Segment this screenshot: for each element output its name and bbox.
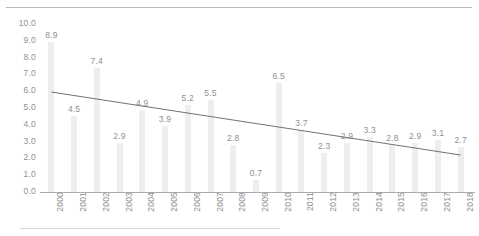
x-axis-tick-label: 2016 — [419, 192, 429, 212]
x-axis-tick-label: 2014 — [374, 192, 384, 212]
x-axis-tick-label: 2015 — [396, 192, 406, 212]
x-axis: 2000200120022003200420052006200720082009… — [40, 192, 472, 236]
y-axis-tick-label: 7.0 — [2, 69, 36, 78]
y-axis-tick-label: 4.0 — [2, 120, 36, 129]
x-axis-tick-label: 2018 — [465, 192, 475, 212]
y-axis-tick-label: 10.0 — [2, 19, 36, 28]
x-axis-tick-label: 2009 — [260, 192, 270, 212]
x-axis-tick-label: 2007 — [215, 192, 225, 212]
y-axis-tick-label: 3.0 — [2, 137, 36, 146]
bottom-divider — [20, 228, 280, 229]
x-axis-tick-label: 2012 — [328, 192, 338, 212]
x-axis-tick-label: 2002 — [101, 192, 111, 212]
x-axis-tick-label: 2006 — [192, 192, 202, 212]
x-axis-tick-label: 2008 — [237, 192, 247, 212]
bar-chart: 8.94.57.42.94.93.95.25.52.80.76.53.72.32… — [0, 18, 479, 218]
y-axis-tick-label: 8.0 — [2, 53, 36, 62]
top-divider — [6, 7, 472, 8]
x-axis-tick-label: 2000 — [55, 192, 65, 212]
chart-page: 8.94.57.42.94.93.95.25.52.80.76.53.72.32… — [0, 0, 479, 236]
trendline — [40, 24, 472, 192]
x-axis-tick-label: 2001 — [78, 192, 88, 212]
y-axis-tick-label: 2.0 — [2, 153, 36, 162]
y-axis-tick-label: 6.0 — [2, 86, 36, 95]
x-axis-tick-label: 2004 — [146, 192, 156, 212]
y-axis-tick-label: 5.0 — [2, 103, 36, 112]
y-axis-tick-label: 9.0 — [2, 36, 36, 45]
x-axis-tick-label: 2005 — [169, 192, 179, 212]
y-axis-tick-label: 1.0 — [2, 170, 36, 179]
plot-area: 8.94.57.42.94.93.95.25.52.80.76.53.72.32… — [40, 24, 472, 192]
x-axis-tick-label: 2013 — [351, 192, 361, 212]
y-axis-tick-label: 0.0 — [2, 187, 36, 196]
x-axis-tick-label: 2017 — [442, 192, 452, 212]
x-axis-tick-label: 2003 — [124, 192, 134, 212]
x-axis-tick-label: 2011 — [305, 192, 315, 211]
x-axis-tick-label: 2010 — [283, 192, 293, 212]
